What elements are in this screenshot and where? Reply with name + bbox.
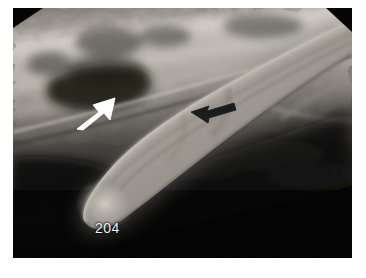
radiograph-canvas (13, 8, 352, 258)
film-grain (13, 8, 352, 258)
film-content (13, 8, 352, 258)
radiograph-image (13, 8, 352, 258)
tooth-number-label: 204 (95, 221, 120, 235)
radiograph-page: 204 (0, 0, 366, 278)
